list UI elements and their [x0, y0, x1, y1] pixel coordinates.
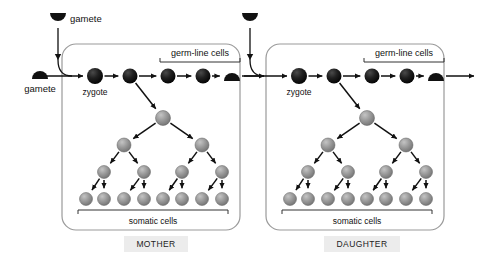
mother-somatic-cell-3-3	[138, 193, 151, 206]
mother-somatic-cell-3-7	[216, 193, 229, 206]
mother-somatic-arrow-2-1	[129, 152, 138, 164]
daughter-zygote	[291, 68, 307, 84]
daughter-germline-cell-3	[365, 69, 380, 84]
mother-somatic-cell-1-1	[195, 138, 209, 152]
daughter-somatic-cell-3-6	[400, 193, 413, 206]
mother-germline-cell-4	[196, 69, 211, 84]
gamete-top-daughter	[242, 13, 258, 21]
panel-tag-mother: MOTHER	[124, 236, 188, 252]
daughter-somatic-arrow-1-0	[337, 123, 359, 139]
mother-somatic-cell-2-3	[216, 166, 229, 179]
mother-germline-label: germ-line cells	[171, 49, 229, 58]
daughter-germline-cell-2	[327, 69, 342, 84]
mother-germline-cell-2	[123, 69, 138, 84]
daughter-somatic-cell-3-1	[302, 193, 315, 206]
daughter-somatic-arrow-3-2	[334, 178, 343, 190]
mother-somatic-cell-3-0	[80, 193, 93, 206]
daughter-somatic-arrow-2-2	[392, 152, 401, 164]
daughter-germline-bracket	[364, 58, 444, 62]
mother-germline-cell-3	[161, 69, 176, 84]
daughter-zygote-label: zygote	[286, 88, 311, 97]
daughter-germline-label: germ-line cells	[375, 49, 433, 58]
daughter-germline-cell-4	[400, 69, 415, 84]
daughter-somatic-cell-2-2	[380, 166, 393, 179]
mother-somatic-bracket	[78, 210, 228, 214]
mother-somatic-cell-3-1	[98, 193, 111, 206]
mother-somatic-cell-1-0	[117, 138, 131, 152]
gamete-left-label: gamete	[24, 84, 56, 94]
daughter-somatic-cell-1-1	[399, 138, 413, 152]
gamete-drop-head-daughter	[247, 54, 253, 60]
daughter-somatic-cell-2-3	[420, 166, 433, 179]
mother-somatic-cell-2-2	[176, 166, 189, 179]
gamete-drop-head-mother	[55, 54, 61, 60]
daughter-somatic-cell-3-5	[380, 193, 393, 206]
daughter-somatic-arrow-2-1	[333, 152, 342, 164]
daughter-somatic-cell-2-1	[342, 166, 355, 179]
daughter-somatic-label: somatic cells	[333, 217, 382, 226]
gamete-top-mother-label: gamete	[70, 14, 102, 24]
mother-germline-bracket	[160, 58, 240, 62]
mother-somatic-cell-0-0	[156, 111, 171, 126]
mother-somatic-branch	[136, 83, 156, 109]
mother-zygote-label: zygote	[82, 88, 107, 97]
gamete-drop-daughter	[250, 28, 264, 76]
mother-germline-gamete	[224, 73, 240, 81]
daughter-somatic-bracket	[282, 210, 432, 214]
daughter-somatic-cell-3-4	[361, 193, 374, 206]
daughter-germline-gamete	[428, 73, 444, 81]
panel-mother	[62, 44, 240, 230]
figure-canvas: gametegametegerm-line cellszygotesomatic…	[0, 0, 477, 261]
mother-somatic-cell-3-2	[118, 193, 131, 206]
daughter-somatic-arrow-3-6	[412, 178, 421, 190]
gamete-left	[32, 71, 48, 79]
mother-somatic-cell-3-5	[176, 193, 189, 206]
daughter-somatic-cell-3-2	[322, 193, 335, 206]
daughter-somatic-arrow-1-1	[374, 123, 396, 139]
diagram-artwork	[0, 0, 477, 261]
mother-somatic-arrow-3-6	[208, 178, 217, 190]
gamete-top-mother	[50, 13, 66, 21]
mother-somatic-arrow-2-3	[207, 152, 216, 164]
mother-somatic-arrow-1-1	[170, 123, 192, 139]
mother-somatic-label: somatic cells	[129, 217, 178, 226]
daughter-somatic-arrow-2-0	[314, 152, 323, 164]
daughter-somatic-cell-3-3	[342, 193, 355, 206]
mother-zygote	[87, 68, 103, 84]
mother-somatic-arrow-3-2	[130, 178, 139, 190]
daughter-somatic-cell-3-0	[284, 193, 297, 206]
daughter-somatic-arrow-3-0	[296, 179, 304, 190]
mother-somatic-arrow-2-0	[110, 152, 119, 164]
daughter-somatic-cell-3-7	[420, 193, 433, 206]
mother-somatic-arrow-1-0	[133, 123, 155, 139]
mother-somatic-cell-2-1	[138, 166, 151, 179]
daughter-somatic-cell-2-0	[302, 166, 315, 179]
daughter-somatic-branch	[340, 83, 360, 109]
panel-daughter	[266, 44, 444, 230]
mother-somatic-cell-3-6	[196, 193, 209, 206]
mother-somatic-cell-2-0	[98, 166, 111, 179]
daughter-somatic-cell-0-0	[360, 111, 375, 126]
daughter-somatic-cell-1-0	[321, 138, 335, 152]
gamete-drop-mother	[58, 28, 72, 76]
daughter-somatic-arrow-2-3	[411, 152, 420, 164]
mother-somatic-arrow-3-0	[92, 179, 100, 190]
panel-tag-daughter: DAUGHTER	[324, 236, 400, 252]
daughter-somatic-arrow-3-4	[373, 179, 381, 191]
mother-somatic-arrow-2-2	[188, 152, 197, 164]
mother-somatic-cell-3-4	[157, 193, 170, 206]
mother-somatic-arrow-3-4	[169, 179, 177, 191]
